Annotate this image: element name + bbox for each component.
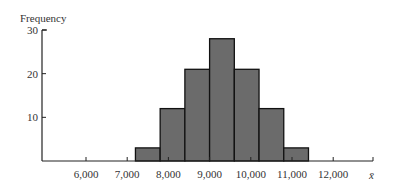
histogram-bar — [160, 109, 185, 161]
x-tick-label: 9,000 — [197, 168, 222, 180]
histogram-bar — [135, 148, 160, 161]
y-axis-label: Frequency — [20, 12, 67, 24]
y-tick-label: 20 — [27, 68, 39, 80]
histogram-bar — [210, 39, 235, 161]
x-tick-label: 11,000 — [277, 168, 307, 180]
x-tick-label: 12,000 — [318, 168, 349, 180]
y-axis: 102030 — [27, 24, 47, 161]
histogram-bar — [284, 148, 309, 161]
histogram-bar — [259, 109, 284, 161]
x-tick-label: 7,000 — [115, 168, 140, 180]
y-tick-label: 30 — [27, 24, 39, 36]
x-axis-label: x̄ — [368, 169, 374, 181]
histogram-bar — [234, 69, 259, 161]
x-tick-label: 8,000 — [156, 168, 181, 180]
x-axis: 6,0007,0008,0009,00010,00011,00012,000 — [42, 157, 373, 180]
x-tick-label: 10,000 — [236, 168, 267, 180]
y-tick-label: 10 — [27, 111, 39, 123]
histogram-bars — [135, 39, 308, 161]
histogram-chart: Frequency 102030 6,0007,0008,0009,00010,… — [0, 0, 396, 190]
x-tick-label: 6,000 — [74, 168, 99, 180]
histogram-bar — [185, 69, 210, 161]
